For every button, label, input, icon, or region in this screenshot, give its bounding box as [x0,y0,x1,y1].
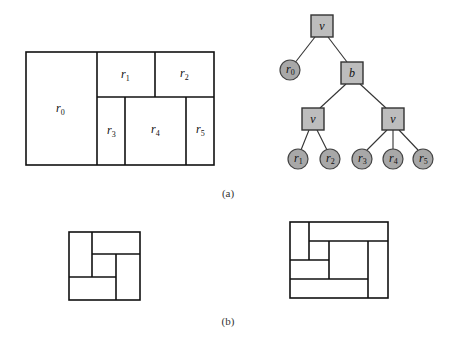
region-r3-label: r3 [107,123,116,139]
region-r0-label: r0 [56,101,65,117]
region-r1-label: r1 [121,67,130,83]
region-labels: r0 r1 r2 r3 r4 r5 [56,66,205,139]
spiral-floorplan [290,222,388,298]
svg-text:v: v [319,19,325,33]
region-r2-label: r2 [180,66,189,82]
caption-b: (b) [222,315,235,327]
svg-text:b: b [349,66,355,80]
region-r5-label: r5 [196,122,205,138]
tree-edges [294,37,418,150]
svg-text:v: v [390,112,396,126]
svg-text:v: v [310,112,316,126]
pinwheel-floorplan [69,232,140,300]
region-r4-label: r4 [151,122,160,138]
caption-a: (a) [222,187,234,199]
floorplan-a [26,52,214,165]
figure-canvas: r0 r1 r2 r3 r4 r5 v b v v [0,0,457,339]
